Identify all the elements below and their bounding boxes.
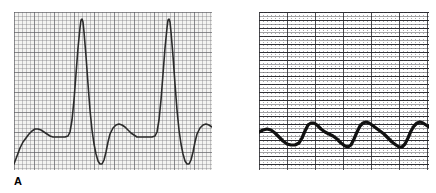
ecg-trace-a [14, 12, 212, 170]
panel-a: A [0, 0, 218, 193]
ecg-figure: A B [0, 0, 436, 193]
ecg-trace-b [259, 12, 429, 170]
panel-b: B [218, 0, 436, 193]
panel-label-a: A [14, 176, 22, 187]
